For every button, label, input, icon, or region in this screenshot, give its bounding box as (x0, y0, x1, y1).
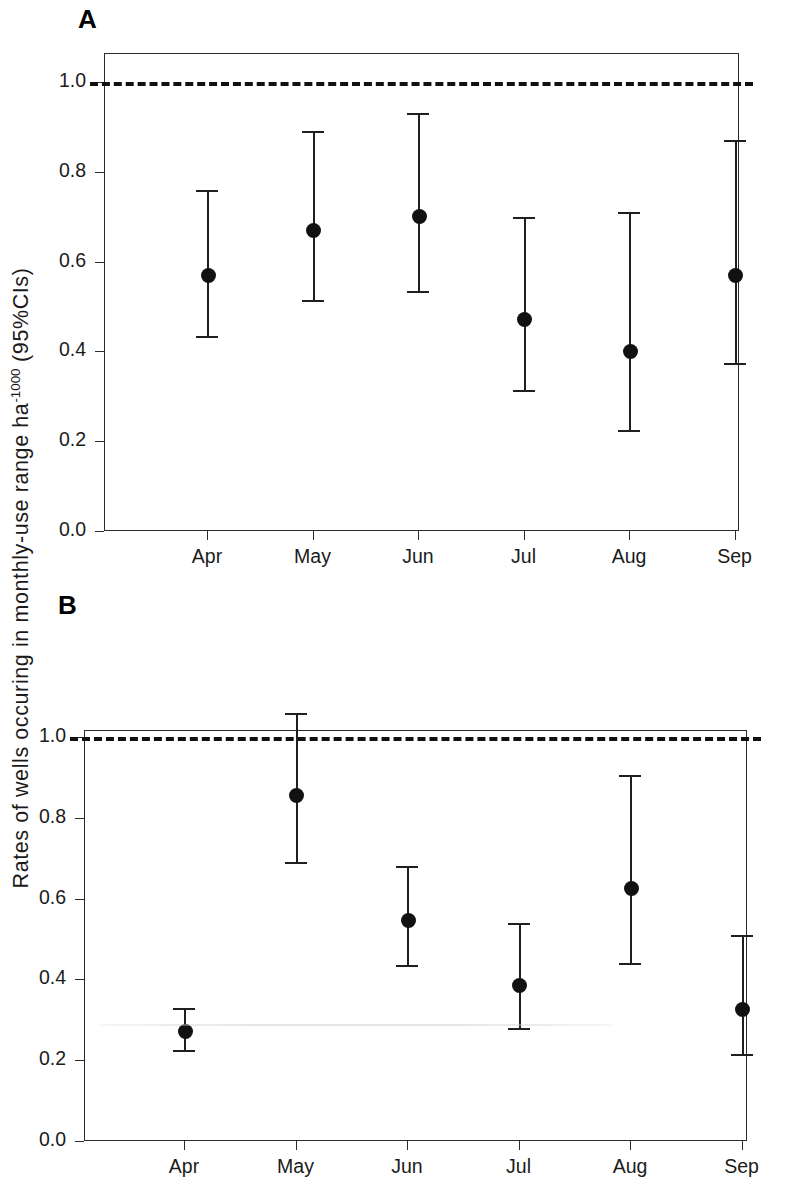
data-point-marker-sep (735, 1002, 750, 1017)
data-point-marker-may (289, 788, 304, 803)
y-axis-tick-label: 0.0 (6, 1128, 66, 1151)
y-axis-tick (95, 351, 104, 352)
plot-frame-b (84, 730, 747, 1141)
x-axis-tick-label-aug: Aug (589, 545, 669, 568)
x-axis-tick (629, 531, 630, 540)
x-axis-tick-label-aug: Aug (590, 1155, 670, 1178)
error-bar-upper-cap (618, 212, 640, 214)
error-bar-upper-cap (513, 217, 535, 219)
error-bar-whisker (524, 217, 526, 392)
x-axis-tick-label-jul: Jul (484, 545, 564, 568)
error-bar-upper-cap (724, 140, 746, 142)
reference-line-1.0 (90, 82, 753, 86)
error-bar-upper-cap (302, 131, 324, 133)
panel-letter-b: B (58, 590, 77, 621)
x-axis-tick (296, 1141, 297, 1150)
x-axis-tick (207, 531, 208, 540)
panel-a: 0.00.20.40.60.81.0AprMayJunJulAugSep (0, 40, 803, 560)
x-axis-tick-label-may: May (256, 1155, 336, 1178)
y-axis-tick-label: 0.8 (6, 805, 66, 828)
error-bar-upper-cap (196, 190, 218, 192)
x-axis-tick (630, 1141, 631, 1150)
error-bar-upper-cap (508, 923, 530, 925)
error-bar-upper-cap (173, 1008, 195, 1010)
error-bar-lower-cap (196, 336, 218, 338)
x-axis-tick-label-jul: Jul (479, 1155, 559, 1178)
y-axis-tick-label: 0.8 (26, 159, 86, 182)
data-point-marker-aug (623, 344, 638, 359)
panel-b: 0.00.20.40.60.81.0AprMayJunJulAugSep (0, 620, 803, 1201)
error-bar-lower-cap (173, 1050, 195, 1052)
error-bar-whisker (519, 923, 521, 1030)
y-axis-tick-label: 1.0 (26, 69, 86, 92)
x-axis-tick-label-jun: Jun (367, 1155, 447, 1178)
error-bar-whisker (742, 935, 744, 1056)
data-point-marker-sep (728, 268, 743, 283)
x-axis-tick-label-may: May (273, 545, 353, 568)
y-axis-tick-label: 0.4 (26, 338, 86, 361)
x-axis-tick (418, 531, 419, 540)
error-bar-upper-cap (731, 935, 753, 937)
x-axis-tick-label-jun: Jun (378, 545, 458, 568)
y-axis-tick-label: 0.0 (26, 518, 86, 541)
error-bar-lower-cap (731, 1054, 753, 1056)
y-axis-tick (95, 262, 104, 263)
error-bar-lower-cap (619, 963, 641, 965)
y-axis-tick (75, 979, 84, 980)
error-bar-whisker (207, 190, 209, 338)
reference-line-1.0 (70, 737, 761, 741)
y-axis-tick-label: 0.2 (26, 428, 86, 451)
error-bar-lower-cap (285, 862, 307, 864)
error-bar-whisker (418, 113, 420, 293)
data-point-marker-apr (201, 268, 216, 283)
x-axis-tick (407, 1141, 408, 1150)
x-axis-tick (735, 531, 736, 540)
x-axis-tick (184, 1141, 185, 1150)
y-axis-tick (95, 441, 104, 442)
x-axis-tick (519, 1141, 520, 1150)
data-point-marker-may (306, 223, 321, 238)
y-axis-tick-label: 0.6 (6, 886, 66, 909)
data-point-marker-jul (512, 978, 527, 993)
y-axis-tick-label: 1.0 (6, 724, 66, 747)
data-point-marker-aug (624, 881, 639, 896)
y-axis-tick (95, 172, 104, 173)
error-bar-lower-cap (513, 390, 535, 392)
x-axis-tick-label-sep: Sep (695, 545, 775, 568)
error-bar-upper-cap (285, 713, 307, 715)
error-bar-lower-cap (508, 1028, 530, 1030)
error-bar-upper-cap (407, 113, 429, 115)
panel-letter-a: A (78, 4, 97, 35)
y-axis-tick (75, 899, 84, 900)
x-axis-tick (524, 531, 525, 540)
y-axis-tick (75, 818, 84, 819)
x-axis-tick-label-apr: Apr (167, 545, 247, 568)
error-bar-whisker (629, 212, 631, 432)
y-axis-tick-label: 0.6 (26, 249, 86, 272)
error-bar-whisker (630, 775, 632, 965)
data-point-marker-jun (412, 209, 427, 224)
error-bar-upper-cap (619, 775, 641, 777)
x-axis-tick (313, 531, 314, 540)
error-bar-whisker (313, 131, 315, 302)
error-bar-lower-cap (724, 363, 746, 365)
data-point-marker-apr (178, 1024, 193, 1039)
x-axis-tick-label-apr: Apr (144, 1155, 224, 1178)
y-axis-tick (95, 531, 104, 532)
y-axis-tick-label: 0.2 (6, 1047, 66, 1070)
x-axis-tick (742, 1141, 743, 1150)
error-bar-whisker (735, 140, 737, 365)
y-axis-tick (75, 1141, 84, 1142)
x-axis-tick-label-sep: Sep (702, 1155, 782, 1178)
data-point-marker-jun (401, 913, 416, 928)
error-bar-lower-cap (396, 965, 418, 967)
error-bar-upper-cap (396, 866, 418, 868)
error-bar-lower-cap (618, 430, 640, 432)
error-bar-lower-cap (302, 300, 324, 302)
figure-two-panel-error-bar-plot: Rates of wells occuring in monthly-use r… (0, 0, 803, 1201)
y-axis-tick (75, 1060, 84, 1061)
scan-artifact (96, 1024, 616, 1026)
y-axis-tick-label: 0.4 (6, 966, 66, 989)
error-bar-lower-cap (407, 291, 429, 293)
